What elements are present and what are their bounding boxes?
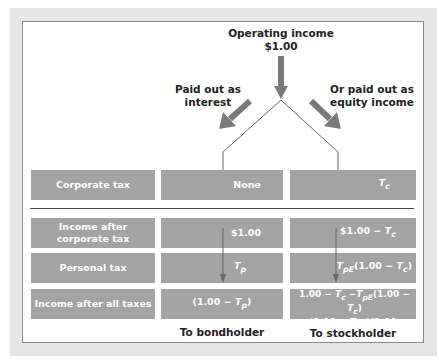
- vertical-flow-arrows: [0, 0, 439, 361]
- to-bondholder-label: To bondholder: [161, 326, 283, 339]
- to-stockholder-label: To stockholder: [290, 327, 416, 340]
- bond-down-arrow-icon: [220, 228, 226, 283]
- stock-down-arrow-icon: [333, 228, 339, 283]
